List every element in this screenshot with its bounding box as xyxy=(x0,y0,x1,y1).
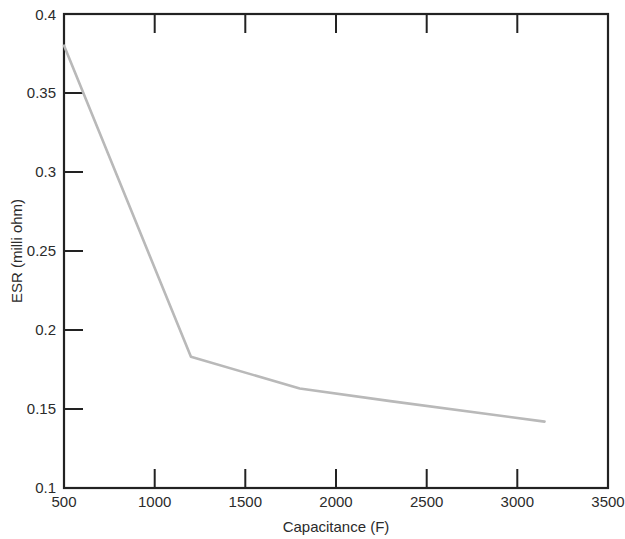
y-tick-label-0.4: 0.4 xyxy=(35,6,56,23)
x-tick-label-1500: 1500 xyxy=(229,493,262,510)
y-tick-label-0.1: 0.1 xyxy=(35,479,56,496)
y-tick-label-0.2: 0.2 xyxy=(35,321,56,338)
y-tick-labels: 0.1 0.15 0.2 0.25 0.3 0.35 0.4 xyxy=(27,6,56,496)
chart-figure: 500 1000 1500 2000 2500 3000 3500 0.1 0.… xyxy=(0,0,625,539)
x-tick-label-1000: 1000 xyxy=(138,493,171,510)
y-tick-label-0.3: 0.3 xyxy=(35,163,56,180)
y-tick-label-0.15: 0.15 xyxy=(27,400,56,417)
x-tick-label-2000: 2000 xyxy=(319,493,352,510)
esr-capacitance-line-chart: 500 1000 1500 2000 2500 3000 3500 0.1 0.… xyxy=(0,0,625,539)
x-tick-labels: 500 1000 1500 2000 2500 3000 3500 xyxy=(51,493,624,510)
x-axis-title: Capacitance (F) xyxy=(283,518,390,535)
y-axis-title: ESR (milli ohm) xyxy=(8,199,25,303)
x-tick-label-2500: 2500 xyxy=(410,493,443,510)
x-tick-label-3000: 3000 xyxy=(501,493,534,510)
y-tick-label-0.25: 0.25 xyxy=(27,242,56,259)
plot-frame xyxy=(64,14,608,488)
x-tick-label-3500: 3500 xyxy=(591,493,624,510)
y-tick-label-0.35: 0.35 xyxy=(27,84,56,101)
